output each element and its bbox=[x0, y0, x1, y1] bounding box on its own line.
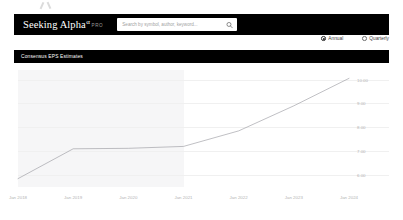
section-title: Consensus EPS Estimates bbox=[21, 54, 83, 59]
section-header-bar: Consensus EPS Estimates bbox=[14, 50, 389, 63]
radio-label-quarterly: Quarterly bbox=[369, 36, 389, 41]
y-axis-tick-label: 9.00 bbox=[357, 101, 366, 106]
radio-label-annual: Annual bbox=[328, 36, 343, 41]
period-selector: Annual Quarterly bbox=[321, 36, 389, 41]
eps-chart-panel: 10.009.008.007.006.00 Jan 2018Jan 2019Ja… bbox=[14, 63, 389, 210]
y-axis-tick-label: 10.00 bbox=[357, 77, 368, 82]
radio-option-annual[interactable]: Annual bbox=[321, 36, 343, 41]
y-axis-tick-label: 8.00 bbox=[357, 125, 366, 130]
chart-x-axis: Jan 2018Jan 2019Jan 2020Jan 2021Jan 2022… bbox=[18, 195, 349, 204]
x-axis-tick-label: Jan 2022 bbox=[230, 195, 248, 200]
radio-option-quarterly[interactable]: Quarterly bbox=[362, 36, 389, 41]
radio-dot-annual-icon[interactable] bbox=[321, 36, 326, 41]
search-box[interactable] bbox=[117, 18, 237, 31]
logo-text: Seeking Alpha bbox=[23, 19, 86, 30]
y-axis-tick-label: 6.00 bbox=[357, 173, 366, 178]
search-icon[interactable] bbox=[226, 21, 233, 28]
top-navbar: Seeking Alpha α PRO bbox=[14, 14, 389, 35]
x-axis-tick-label: Jan 2020 bbox=[119, 195, 137, 200]
x-axis-tick-label: Jan 2018 bbox=[9, 195, 27, 200]
chart-y-axis: 10.009.008.007.006.00 bbox=[351, 70, 385, 187]
x-axis-tick-label: Jan 2023 bbox=[285, 195, 303, 200]
x-axis-tick-label: Jan 2021 bbox=[174, 195, 192, 200]
radio-dot-quarterly-icon[interactable] bbox=[362, 36, 367, 41]
x-axis-tick-label: Jan 2019 bbox=[64, 195, 82, 200]
search-input[interactable] bbox=[117, 18, 237, 31]
seeking-alpha-logo[interactable]: Seeking Alpha α PRO bbox=[23, 19, 103, 30]
chart-plot-area bbox=[18, 70, 349, 187]
logo-pro-badge: PRO bbox=[92, 23, 104, 28]
y-axis-tick-label: 7.00 bbox=[357, 149, 366, 154]
alpha-symbol-icon: α bbox=[86, 18, 90, 26]
eps-line-series bbox=[18, 70, 349, 187]
x-axis-tick-label: Jan 2024 bbox=[340, 195, 358, 200]
cursor-artifact bbox=[38, 2, 52, 10]
